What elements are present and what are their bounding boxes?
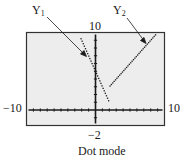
calculator-screen	[0, 0, 184, 161]
